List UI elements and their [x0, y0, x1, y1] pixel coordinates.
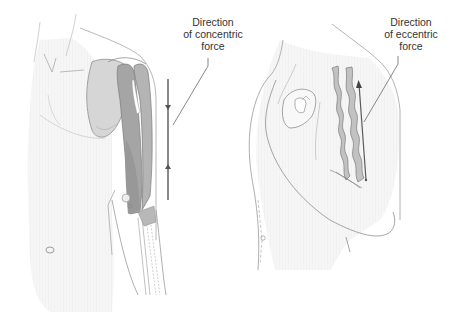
concentric-panel	[28, 14, 208, 312]
concentric-force-label: Direction of concentric force	[178, 16, 248, 52]
concentric-label-line-1: Direction	[178, 16, 248, 28]
eccentric-label-line-3: force	[378, 40, 444, 52]
concentric-leader-line	[173, 58, 208, 125]
eccentric-label-line-2: of eccentric	[378, 28, 444, 40]
torso-right	[256, 40, 399, 270]
eccentric-label-line-1: Direction	[378, 16, 444, 28]
concentric-force-arrow	[165, 79, 171, 200]
concentric-label-line-2: of concentric	[178, 28, 248, 40]
concentric-label-line-3: force	[178, 40, 248, 52]
eccentric-force-label: Direction of eccentric force	[378, 16, 444, 52]
eccentric-panel	[249, 24, 400, 270]
